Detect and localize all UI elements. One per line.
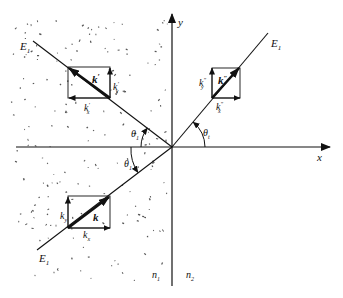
incident-kx-label: kx — [83, 229, 90, 242]
medium-n1-label: n1 — [152, 269, 160, 282]
incident-angle-label: θ1 — [124, 158, 132, 171]
refracted-ky-label: k″y — [199, 77, 206, 90]
medium-n2-label: n2 — [186, 269, 194, 282]
incident-angle-arc — [131, 147, 138, 173]
incident-field-label: E1 — [38, 252, 49, 267]
refracted-k-arrow — [212, 68, 239, 98]
x-axis-label: x — [316, 151, 322, 163]
reflected-wave-vector: k′ k′y k′x — [68, 67, 119, 115]
y-axis-label: y — [177, 16, 183, 28]
incident-ky-label: ky — [60, 210, 67, 223]
reflected-kx-label: k′x — [84, 102, 90, 115]
reflected-field-label: E1 — [19, 40, 30, 55]
reflected-k-label: k′ — [92, 73, 100, 85]
refracted-field-label: E1 — [270, 37, 281, 52]
incident-ray — [37, 147, 172, 250]
incident-k-label: k — [93, 211, 99, 223]
reflected-ky-label: k′y — [113, 81, 119, 94]
refracted-kx-label: k″x — [216, 101, 223, 114]
diagram-canvas: x y E1 E1 E1 θ1 θ1 θt k′ k′y k′x — [0, 0, 343, 298]
reflected-angle-label: θ1 — [131, 128, 139, 141]
incident-wave-vector: k ky kx — [60, 196, 110, 242]
reflected-k-arrow — [69, 68, 110, 98]
